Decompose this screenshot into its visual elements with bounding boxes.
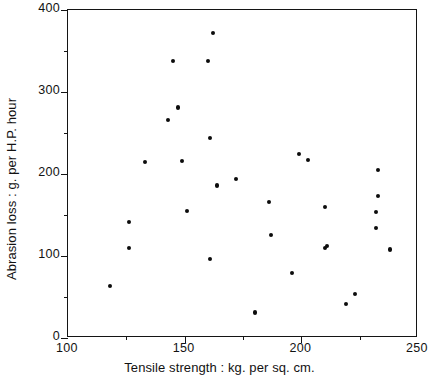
x-tick-label: 100 (43, 341, 91, 355)
data-point (376, 168, 380, 172)
y-tick-mark-minor (64, 215, 68, 216)
y-tick-mark (61, 10, 68, 11)
y-tick-label: 100 (24, 247, 60, 261)
data-point (234, 177, 238, 181)
data-point (323, 205, 327, 209)
y-tick-mark-minor (64, 51, 68, 52)
data-point (171, 59, 175, 63)
y-tick-mark (61, 338, 68, 339)
y-tick-mark (61, 174, 68, 175)
y-axis-title-container: Abrasion loss : g. per H.P. hour (2, 0, 22, 378)
data-point (108, 284, 112, 288)
data-point (127, 220, 131, 224)
x-axis-title: Tensile strength : kg. per sq. cm. (0, 360, 439, 375)
data-point (290, 271, 294, 275)
data-point (211, 31, 215, 35)
scatter-plot-figure: Abrasion loss : g. per H.P. hour 0100200… (0, 0, 439, 378)
data-point (374, 210, 378, 214)
data-point (166, 118, 170, 122)
x-tick-label: 150 (160, 341, 208, 355)
y-tick-label: 200 (24, 165, 60, 179)
data-point (374, 226, 378, 230)
x-tick-label: 250 (393, 341, 439, 355)
data-point (253, 310, 257, 314)
data-point (176, 105, 180, 109)
data-point (208, 257, 212, 261)
data-point (208, 136, 212, 140)
data-point (206, 59, 210, 63)
plot-area (67, 9, 417, 337)
y-tick-label: 400 (24, 1, 60, 15)
y-tick-mark (61, 92, 68, 93)
data-point (127, 246, 131, 250)
data-point (306, 158, 310, 162)
x-tick-mark-minor (360, 336, 361, 340)
data-point (376, 194, 380, 198)
data-point (388, 247, 392, 251)
x-tick-mark-minor (126, 336, 127, 340)
data-point (215, 183, 219, 187)
data-point (325, 244, 329, 248)
y-tick-mark-minor (64, 297, 68, 298)
y-tick-mark-minor (64, 133, 68, 134)
data-point (344, 302, 348, 306)
data-point (269, 233, 273, 237)
y-tick-label: 300 (24, 83, 60, 97)
data-point (353, 292, 357, 296)
data-point (143, 160, 147, 164)
y-tick-mark (61, 256, 68, 257)
data-point (185, 209, 189, 213)
data-point (267, 200, 271, 204)
x-tick-label: 200 (276, 341, 324, 355)
data-point (297, 152, 301, 156)
y-axis-title: Abrasion loss : g. per H.P. hour (2, 0, 22, 378)
x-tick-mark-minor (243, 336, 244, 340)
data-point (180, 159, 184, 163)
